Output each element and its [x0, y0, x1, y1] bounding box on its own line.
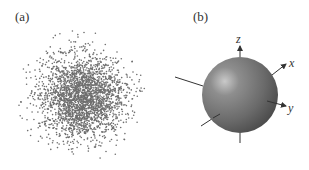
axis-x-label: x [288, 56, 295, 70]
figure-canvas: z x y [0, 0, 309, 170]
sphere [202, 57, 278, 133]
point-cloud-scatter [18, 30, 145, 159]
sphere-diagram: z x y [175, 32, 295, 143]
axis-x-arrow [272, 64, 286, 75]
axis-y-label: y [287, 101, 294, 115]
axis-z-label: z [235, 32, 241, 46]
axis-x-back [175, 77, 203, 86]
